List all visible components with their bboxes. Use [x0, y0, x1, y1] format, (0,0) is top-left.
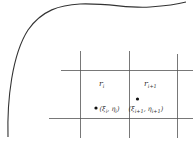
- paren-close: ): [160, 105, 164, 113]
- point-label-i-plus-1: (ξi+1, ηi+1): [129, 105, 164, 114]
- partition-diagram: ri ri+1 (ξi, ηi) (ξi+1, ηi+1): [0, 0, 193, 152]
- sample-point-i-plus-1: [136, 97, 139, 100]
- region-label-r-i: ri: [99, 79, 105, 89]
- region-label-r-i-sub: i: [103, 83, 105, 89]
- sample-point-i: [94, 106, 97, 109]
- paren-close: ): [116, 105, 120, 113]
- region-label-r-i-plus-1: ri+1: [144, 79, 157, 89]
- boundary-curve: [8, 2, 186, 137]
- eta-subscript: i+1: [152, 108, 161, 114]
- point-label-i: (ξi, ηi): [100, 105, 120, 114]
- region-label-r-i-plus-1-sub: i+1: [148, 83, 157, 89]
- xi-subscript: i+1: [135, 108, 144, 114]
